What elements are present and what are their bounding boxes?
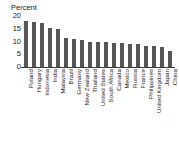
bar bbox=[32, 22, 36, 67]
bar bbox=[56, 29, 60, 68]
bar bbox=[88, 42, 92, 68]
y-tick-label: 10 bbox=[5, 38, 21, 46]
bar bbox=[104, 42, 108, 67]
bar-slot bbox=[102, 16, 110, 67]
bar-chart: Percent 05101520 PolandHungaryIndonesiaI… bbox=[0, 0, 179, 143]
bar bbox=[128, 44, 132, 67]
bar-slot bbox=[166, 16, 174, 67]
y-tick-label: 5 bbox=[5, 50, 21, 58]
bar-slot bbox=[142, 16, 150, 67]
x-tick-label: Germany bbox=[76, 69, 83, 94]
y-tick-label: 15 bbox=[5, 25, 21, 33]
bar bbox=[48, 28, 52, 67]
plot-area bbox=[22, 16, 174, 67]
bar bbox=[152, 46, 156, 67]
bar-slot bbox=[70, 16, 78, 67]
bar-slot bbox=[134, 16, 142, 67]
bar-slot bbox=[86, 16, 94, 67]
x-tick-label: Thailand bbox=[92, 69, 99, 93]
x-tick-label: New Zealand bbox=[84, 69, 91, 105]
x-tick-label: Philippines bbox=[148, 69, 155, 99]
x-tick-label: Hungary bbox=[36, 69, 43, 92]
x-tick-label: China bbox=[172, 69, 179, 85]
bar-slot bbox=[150, 16, 158, 67]
bar-slot bbox=[110, 16, 118, 67]
x-tick-label: United States bbox=[100, 69, 107, 106]
bar bbox=[64, 38, 68, 67]
x-tick-label: United Kingdom bbox=[156, 69, 163, 113]
x-tick-label: Malaysia bbox=[60, 69, 67, 93]
bar bbox=[112, 43, 116, 67]
x-tick-label: Mexico bbox=[124, 69, 131, 89]
bar bbox=[136, 44, 140, 67]
x-tick-label: Indonesia bbox=[44, 69, 51, 96]
bar-slot bbox=[158, 16, 166, 67]
bar-slot bbox=[126, 16, 134, 67]
x-tick-label: Poland bbox=[28, 69, 35, 88]
bar-slot bbox=[94, 16, 102, 67]
bar-slot bbox=[22, 16, 30, 67]
x-tick-label: Brazil bbox=[68, 69, 75, 84]
bar-slot bbox=[78, 16, 86, 67]
x-axis-tick-labels: PolandHungaryIndonesiaIndiaMalaysiaBrazi… bbox=[22, 68, 174, 143]
y-axis-tick-labels: 05101520 bbox=[2, 0, 21, 143]
x-tick-label: Russia bbox=[132, 69, 139, 88]
bar bbox=[120, 43, 124, 67]
y-tick-label: 0 bbox=[5, 63, 21, 71]
bar bbox=[72, 39, 76, 67]
bar bbox=[168, 51, 172, 67]
bar-slot bbox=[46, 16, 54, 67]
bar-slot bbox=[38, 16, 46, 67]
x-tick-label: France bbox=[140, 69, 147, 88]
bar bbox=[96, 42, 100, 67]
bar bbox=[40, 23, 44, 67]
bar bbox=[144, 46, 148, 67]
bar-slot bbox=[118, 16, 126, 67]
bar bbox=[24, 21, 28, 67]
bar bbox=[80, 40, 84, 67]
x-tick-label: Japan bbox=[164, 69, 171, 86]
bar-slot bbox=[30, 16, 38, 67]
x-tick-label: Canada bbox=[116, 69, 123, 91]
bar-slot bbox=[62, 16, 70, 67]
bar bbox=[160, 47, 164, 67]
bar-slot bbox=[54, 16, 62, 67]
x-tick-label: India bbox=[52, 69, 59, 82]
x-tick-label: South Africa bbox=[108, 69, 115, 102]
y-tick-label: 20 bbox=[5, 12, 21, 20]
